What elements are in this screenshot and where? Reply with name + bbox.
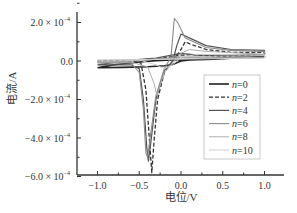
legend-label: n=0 (232, 79, 248, 90)
y-tick-label: −6.0 × 10−4 (25, 170, 70, 182)
legend-label: n=6 (232, 118, 248, 129)
x-ticks: −1.0−0.50.00.51.0 (88, 171, 270, 191)
legend-label: n=10 (232, 145, 253, 156)
y-tick-label: −4.0 × 10−4 (25, 132, 70, 144)
cv-chart: 2.0 × 10−40.0−2.0 × 10−4−4.0 × 10−4−6.0 … (0, 0, 297, 213)
x-tick-label: 0.0 (175, 180, 188, 191)
x-tick-label: −0.5 (130, 180, 148, 191)
legend: n=0n=2n=4n=6n=8n=10 (204, 75, 260, 159)
legend-label: n=8 (232, 131, 248, 142)
y-axis-title: 电流/A (5, 71, 18, 104)
x-tick-label: −1.0 (88, 180, 106, 191)
legend-label: n=2 (232, 92, 248, 103)
x-tick-label: 1.0 (258, 180, 271, 191)
y-tick-label: −2.0 × 10−4 (25, 93, 70, 105)
y-tick-label: 2.0 × 10−4 (30, 16, 70, 28)
y-tick-label: 0.0 (61, 56, 74, 67)
y-ticks: 2.0 × 10−40.0−2.0 × 10−4−4.0 × 10−4−6.0 … (25, 3, 81, 182)
legend-label: n=4 (232, 105, 248, 116)
x-tick-label: 0.5 (217, 180, 230, 191)
x-axis-title: 电位/V (165, 190, 198, 203)
